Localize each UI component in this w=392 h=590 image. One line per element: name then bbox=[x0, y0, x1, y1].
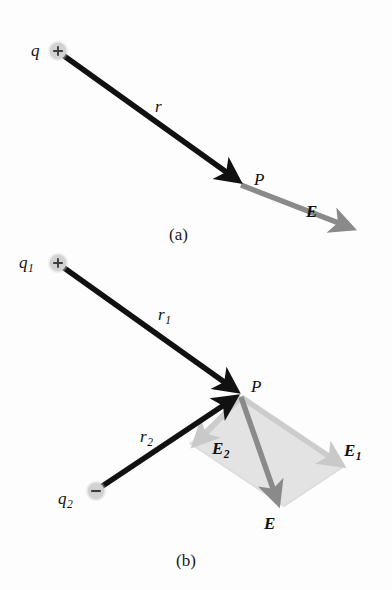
label-distance-r: r bbox=[155, 98, 162, 115]
label-distance-r2: r2 bbox=[140, 428, 153, 448]
field-arrow-a bbox=[241, 185, 349, 227]
panel-b-graphics bbox=[48, 253, 345, 507]
label-field-e2: E2 bbox=[212, 440, 230, 460]
label-charge-q: q bbox=[31, 42, 40, 59]
label-field-e2-sub: 2 bbox=[224, 448, 230, 461]
label-point-p-b: P bbox=[251, 378, 261, 395]
label-resultant-field-e: E bbox=[264, 515, 275, 532]
label-distance-r1-sub: 1 bbox=[165, 314, 171, 327]
label-charge-q1: q1 bbox=[19, 254, 34, 274]
panel-a-graphics bbox=[48, 41, 350, 228]
label-field-e-a: E bbox=[306, 203, 317, 220]
charge-marker-q1 bbox=[48, 253, 69, 274]
label-charge-q2-sub: 2 bbox=[67, 498, 73, 511]
label-distance-r2-sub: 2 bbox=[147, 436, 153, 449]
label-point-p-a: P bbox=[254, 171, 264, 188]
label-distance-r2-base: r bbox=[140, 427, 147, 446]
charge-marker-q2 bbox=[86, 481, 107, 502]
label-field-e1-base: E bbox=[344, 441, 355, 460]
label-charge-q1-sub: 1 bbox=[28, 262, 34, 275]
charge-marker-q bbox=[48, 41, 69, 62]
label-field-e1-sub: 1 bbox=[356, 450, 362, 463]
label-distance-r1: r1 bbox=[158, 306, 171, 326]
figure-root: q r P E (a) q1 r1 r2 q2 P E2 E1 E (b) bbox=[0, 0, 392, 590]
label-field-e2-base: E bbox=[212, 439, 223, 458]
label-charge-q2-base: q bbox=[58, 489, 67, 508]
label-field-e1: E1 bbox=[344, 442, 362, 462]
distance-arrow-r bbox=[60, 53, 236, 179]
label-distance-r1-base: r bbox=[158, 305, 165, 324]
label-charge-q2: q2 bbox=[58, 490, 73, 510]
distance-arrow-r1 bbox=[60, 265, 234, 389]
caption-panel-b: (b) bbox=[176, 552, 196, 569]
label-charge-q1-base: q bbox=[19, 253, 28, 272]
caption-panel-a: (a) bbox=[169, 226, 188, 243]
